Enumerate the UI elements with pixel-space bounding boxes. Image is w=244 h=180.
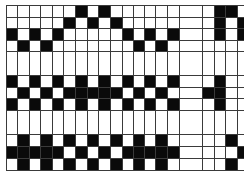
empty-cell <box>179 158 203 171</box>
empty-cell <box>179 51 203 76</box>
empty-cell <box>237 110 244 135</box>
empty-cell <box>179 110 203 135</box>
weave-pattern-grid <box>0 0 244 180</box>
empty-cell <box>237 51 244 76</box>
empty-cell <box>237 158 244 171</box>
